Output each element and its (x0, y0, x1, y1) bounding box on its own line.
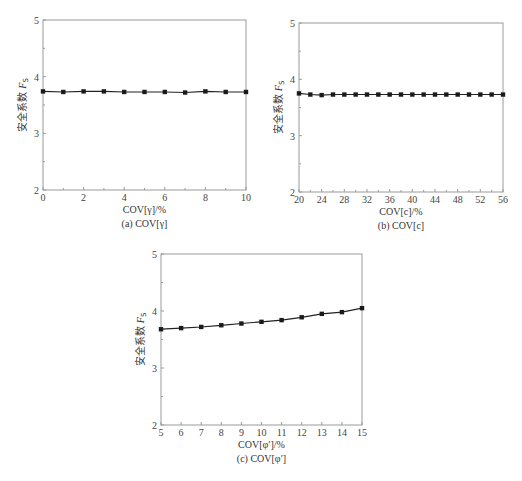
square-marker (179, 326, 183, 330)
square-marker (297, 91, 301, 95)
square-marker (501, 92, 505, 96)
x-tick-label: 0 (41, 192, 46, 203)
square-marker (142, 90, 146, 94)
x-tick-label: 10 (257, 427, 267, 438)
x-tick-label: 2 (81, 192, 86, 203)
x-tick-label: 10 (241, 192, 251, 203)
x-tick-label: 11 (277, 427, 287, 438)
square-marker (387, 92, 391, 96)
square-marker (467, 92, 471, 96)
chart-caption: (c) COV[φ′] (237, 453, 286, 465)
y-tick-label: 4 (290, 74, 295, 85)
figure-canvas: 23450246810COV[γ]/%(a) COV[γ]安全系数 FS2345… (0, 0, 522, 481)
y-tick-label: 4 (152, 306, 157, 317)
square-marker (199, 325, 203, 329)
x-tick-label: 14 (337, 427, 347, 438)
x-axis-label: COV[γ]/% (123, 204, 166, 215)
square-marker (353, 92, 357, 96)
square-marker (360, 306, 364, 310)
chart-c: 234556789101112131415COV[φ′]/%(c) COV[φ′… (134, 249, 367, 465)
x-tick-label: 8 (203, 192, 208, 203)
x-tick-label: 52 (475, 194, 485, 205)
square-marker (300, 315, 304, 319)
chart-b: 234520242832364044485256COV[c]/%(b) COV[… (272, 18, 508, 232)
y-tick-label: 5 (152, 249, 157, 260)
x-tick-label: 56 (498, 194, 508, 205)
square-marker (239, 321, 243, 325)
y-axis-label: 安全系数 FS (134, 312, 148, 366)
x-tick-label: 6 (162, 192, 167, 203)
chart-a: 23450246810COV[γ]/%(a) COV[γ]安全系数 FS (16, 15, 251, 230)
square-marker (455, 92, 459, 96)
chart-caption: (b) COV[c] (378, 220, 424, 232)
x-tick-label: 32 (362, 194, 372, 205)
x-tick-label: 48 (453, 194, 463, 205)
square-marker (41, 89, 45, 93)
square-marker (340, 310, 344, 314)
square-marker (159, 327, 163, 331)
y-tick-label: 2 (152, 420, 157, 431)
x-tick-label: 9 (239, 427, 244, 438)
x-tick-label: 8 (219, 427, 224, 438)
x-tick-label: 5 (159, 427, 164, 438)
y-tick-label: 5 (34, 15, 39, 26)
y-tick-label: 4 (34, 72, 39, 83)
x-tick-label: 6 (179, 427, 184, 438)
x-tick-label: 15 (357, 427, 367, 438)
x-axis-label: COV[φ′]/% (238, 439, 285, 450)
x-tick-label: 36 (385, 194, 395, 205)
square-marker (365, 92, 369, 96)
data-line (161, 308, 362, 329)
x-tick-label: 28 (339, 194, 349, 205)
x-tick-label: 44 (430, 194, 440, 205)
square-marker (331, 92, 335, 96)
square-marker (421, 92, 425, 96)
y-tick-label: 3 (152, 363, 157, 374)
y-tick-label: 3 (34, 128, 39, 139)
square-marker (319, 93, 323, 97)
plot-frame (43, 20, 246, 190)
square-marker (102, 89, 106, 93)
x-axis-label: COV[c]/% (379, 206, 422, 217)
x-tick-label: 7 (199, 427, 204, 438)
y-tick-label: 3 (290, 131, 295, 142)
y-tick-label: 2 (34, 185, 39, 196)
square-marker (163, 90, 167, 94)
square-marker (122, 90, 126, 94)
square-marker (478, 92, 482, 96)
square-marker (308, 92, 312, 96)
plot-frame (161, 254, 362, 425)
square-marker (203, 89, 207, 93)
x-tick-label: 20 (294, 194, 304, 205)
square-marker (489, 92, 493, 96)
square-marker (244, 90, 248, 94)
square-marker (279, 318, 283, 322)
square-marker (399, 92, 403, 96)
square-marker (433, 92, 437, 96)
square-marker (376, 92, 380, 96)
square-marker (320, 312, 324, 316)
square-marker (342, 92, 346, 96)
y-axis-label: 安全系数 FS (16, 78, 30, 132)
square-marker (61, 90, 65, 94)
square-marker (81, 89, 85, 93)
x-tick-label: 4 (122, 192, 127, 203)
square-marker (444, 92, 448, 96)
y-axis-label: 安全系数 FS (272, 80, 286, 134)
x-tick-label: 13 (317, 427, 327, 438)
x-tick-label: 40 (407, 194, 417, 205)
x-tick-label: 12 (297, 427, 307, 438)
y-tick-label: 5 (290, 18, 295, 29)
x-tick-label: 24 (317, 194, 327, 205)
square-marker (259, 320, 263, 324)
square-marker (183, 90, 187, 94)
square-marker (219, 323, 223, 327)
plot-frame (299, 23, 503, 192)
square-marker (410, 92, 414, 96)
square-marker (224, 90, 228, 94)
chart-caption: (a) COV[γ] (122, 218, 168, 230)
